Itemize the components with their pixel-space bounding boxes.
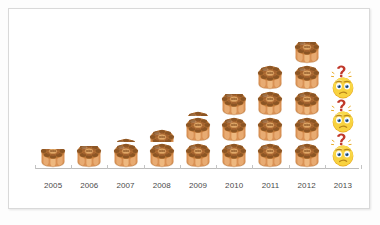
mooncake-pastry-icon [291, 140, 323, 168]
pictogram-column [144, 128, 180, 168]
mooncake-pastry-icon [254, 62, 286, 90]
mooncake-pastry-icon [218, 140, 250, 168]
screenshot-root: 200520062007200820092010201120122013 [0, 0, 380, 225]
pictogram-column [289, 44, 325, 168]
pictogram-columns [35, 18, 359, 168]
confused-face-question-icon [327, 132, 359, 168]
x-axis-tick [361, 165, 362, 169]
mooncake-pastry-icon [254, 88, 286, 116]
pictogram-column [325, 66, 361, 168]
pictogram-column [252, 64, 288, 168]
x-axis-line [35, 168, 359, 169]
mooncake-pastry-icon [218, 114, 250, 142]
pictogram-column [108, 137, 144, 168]
mooncake-pastry-icon [291, 88, 323, 116]
pictogram-column [216, 96, 252, 168]
x-axis-labels: 200520062007200820092010201120122013 [35, 174, 359, 190]
mooncake-pastry-icon-partial [37, 149, 69, 168]
x-axis-label: 2013 [321, 181, 365, 190]
mooncake-pastry-icon-partial [218, 94, 250, 116]
pictogram-column [180, 110, 216, 168]
pictogram-column [71, 148, 107, 168]
mooncake-pastry-icon [146, 140, 178, 168]
confused-face-question-icon [327, 98, 359, 134]
mooncake-pastry-icon [254, 140, 286, 168]
mooncake-pastry-icon-partial [291, 42, 323, 64]
mooncake-pastry-icon [110, 140, 142, 168]
mooncake-pastry-icon [182, 114, 214, 142]
plot-area: 200520062007200820092010201120122013 [35, 21, 359, 194]
confused-face-question-icon [327, 64, 359, 100]
pictogram-column [35, 151, 71, 168]
mooncake-pastry-icon-partial [73, 146, 105, 168]
mooncake-pastry-icon [291, 114, 323, 142]
mooncake-pastry-icon [182, 140, 214, 168]
chart-card: 200520062007200820092010201120122013 [8, 8, 370, 209]
mooncake-pastry-icon [254, 114, 286, 142]
mooncake-pastry-icon [291, 62, 323, 90]
